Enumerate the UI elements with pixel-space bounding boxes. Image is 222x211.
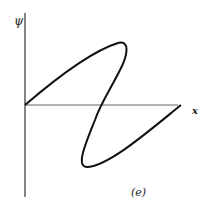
x-axis-label: x [191, 105, 199, 116]
diagram-canvas: ψ x (e) [0, 0, 222, 211]
figure-caption: (e) [131, 186, 146, 199]
y-axis-label: ψ [14, 14, 24, 28]
